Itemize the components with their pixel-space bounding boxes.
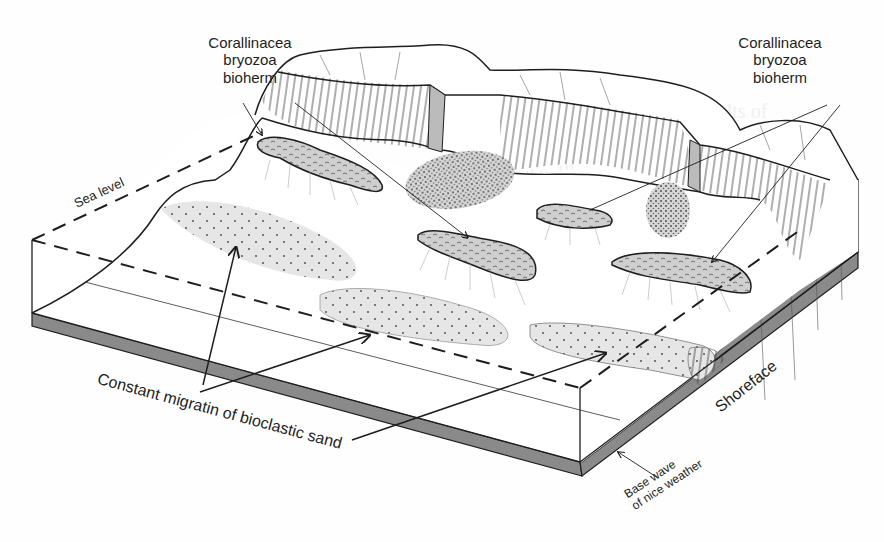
label-line: bioherm	[720, 69, 840, 86]
label-line: bioherm	[190, 69, 310, 86]
debris-fan	[646, 182, 690, 238]
label-line: Corallinacea	[720, 34, 840, 51]
block-diagram: r reported different Ma... with the resu…	[0, 0, 884, 542]
bioherm-label-right: Corallinacea bryozoa bioherm	[720, 34, 840, 86]
bioherm-label-left: Corallinacea bryozoa bioherm	[190, 34, 310, 86]
label-line: bryozoa	[190, 51, 310, 68]
label-line: bryozoa	[720, 51, 840, 68]
label-line: Corallinacea	[190, 34, 310, 51]
